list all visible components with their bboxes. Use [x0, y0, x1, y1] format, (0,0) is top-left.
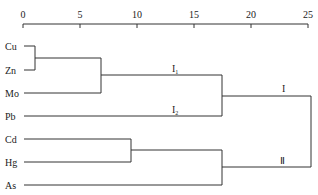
leaf-label: Zn: [5, 65, 16, 76]
branches: [24, 46, 311, 185]
axis-tick: 5: [78, 9, 83, 20]
leaf-label: Pb: [5, 111, 16, 122]
leaf-label: As: [5, 180, 16, 191]
cluster-label-i2: I2: [172, 104, 178, 116]
axis-tick: 15: [189, 9, 199, 20]
leaf-label: Mo: [5, 88, 19, 99]
leaf-label: Cd: [5, 134, 17, 145]
leaf-label: Hg: [5, 157, 17, 168]
axis-tick: 20: [246, 9, 256, 20]
leaf-label: Cu: [5, 41, 17, 52]
axis-tick: 10: [132, 9, 142, 20]
dendrogram: 0 5 10 15 20 25 Cu Zn Mo Pb Cd Hg As I1 …: [0, 0, 318, 195]
cluster-labels: I1 I2 I Ⅱ: [172, 63, 285, 166]
leaf-labels: Cu Zn Mo Pb Cd Hg As: [5, 41, 19, 191]
axis-tick: 25: [303, 9, 313, 20]
cluster-label-i1: I1: [172, 63, 178, 75]
distance-axis: 0 5 10 15 20 25: [21, 9, 314, 28]
axis-tick: 0: [21, 9, 26, 20]
cluster-label-i: I: [282, 83, 285, 94]
cluster-label-ii: Ⅱ: [280, 155, 285, 166]
